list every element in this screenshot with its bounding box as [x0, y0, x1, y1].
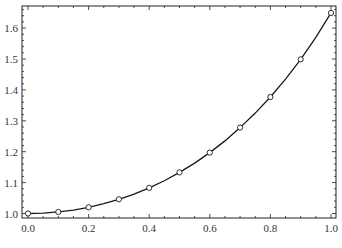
y-tick-label: 1.0	[4, 208, 18, 220]
data-curve	[28, 13, 331, 214]
data-point-marker	[56, 209, 61, 214]
data-point-marker	[207, 150, 212, 155]
y-tick-label: 1.3	[4, 115, 18, 127]
data-point-marker	[177, 170, 182, 175]
y-tick-label: 1.4	[4, 84, 18, 96]
x-tick-label: 1.0	[324, 222, 338, 234]
data-point-marker	[268, 94, 273, 99]
x-tick-label: 0.4	[142, 222, 156, 234]
x-axis: 0.00.20.40.60.81.0	[21, 6, 338, 234]
y-tick-label: 1.5	[4, 53, 18, 65]
data-point-marker	[147, 185, 152, 190]
plot-frame	[22, 6, 336, 218]
y-tick-label: 1.1	[4, 177, 18, 189]
data-point-marker	[298, 57, 303, 62]
x-tick-label: 0.6	[203, 222, 217, 234]
data-markers	[25, 10, 333, 216]
y-tick-label: 1.2	[4, 146, 18, 158]
data-point-marker	[25, 211, 30, 216]
line-chart: 1.01.11.21.31.41.51.6 0.00.20.40.60.81.0	[0, 0, 342, 248]
data-point-marker	[116, 197, 121, 202]
data-point-marker	[86, 205, 91, 210]
x-tick-label: 0.8	[264, 222, 278, 234]
x-tick-label: 0.2	[82, 222, 96, 234]
y-tick-label: 1.6	[4, 22, 18, 34]
x-tick-label: 0.0	[21, 222, 35, 234]
data-point-marker	[328, 10, 333, 15]
data-point-marker	[238, 125, 243, 130]
y-axis: 1.01.11.21.31.41.51.6	[4, 10, 336, 220]
